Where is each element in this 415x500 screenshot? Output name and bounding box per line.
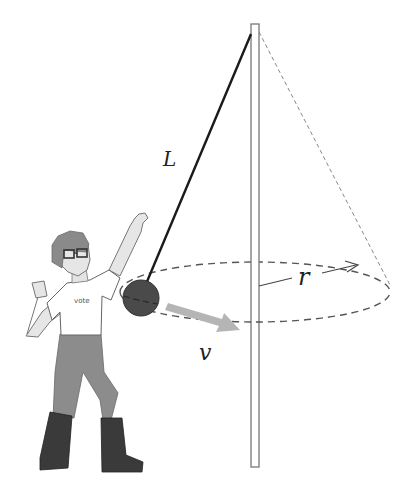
velocity-arrow-icon	[165, 303, 240, 332]
person: vote	[26, 213, 148, 472]
velocity-label: v	[199, 340, 212, 365]
person-raised-arm	[109, 213, 148, 276]
person-left-boot	[40, 412, 72, 470]
length-label: L	[162, 147, 176, 171]
pole	[251, 24, 259, 467]
radius-label: r	[298, 263, 311, 291]
person-pants	[53, 334, 118, 420]
conical-pendulum-diagram: r L vote v	[0, 0, 415, 500]
cone-dashed-line	[259, 32, 390, 285]
person-fist	[32, 281, 47, 298]
shirt-text: vote	[74, 297, 89, 305]
radius-line	[259, 278, 292, 286]
string	[146, 34, 251, 284]
person-right-boot	[101, 418, 143, 472]
